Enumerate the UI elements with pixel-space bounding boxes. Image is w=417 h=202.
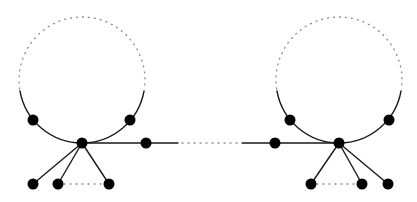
graph-svg <box>0 0 417 202</box>
left-leaf-edge-0 <box>33 143 82 184</box>
left-cycle-dotted-arc <box>19 17 145 89</box>
right-cycle-solid-arc <box>277 91 401 143</box>
edges-layer <box>19 17 402 184</box>
left-hub-vertex <box>77 138 88 149</box>
right-cycle-dotted-arc <box>276 17 402 89</box>
left-leaf-vertex-2 <box>104 179 115 190</box>
left-cycle-vertex-0 <box>28 115 39 126</box>
graph-diagram <box>0 0 417 202</box>
right-path-vertex <box>270 138 281 149</box>
right-leaf-edge-1 <box>339 143 362 184</box>
left-path-vertex <box>141 138 152 149</box>
right-leaf-vertex-1 <box>357 179 368 190</box>
left-cycle-vertex-1 <box>125 115 136 126</box>
vertices-layer <box>28 115 395 190</box>
right-leaf-edge-2 <box>339 143 388 184</box>
right-hub-vertex <box>334 138 345 149</box>
right-cycle-vertex-0 <box>285 115 296 126</box>
left-leaf-edge-2 <box>82 143 109 184</box>
right-cycle-vertex-1 <box>384 115 395 126</box>
right-leaf-vertex-0 <box>306 179 317 190</box>
right-leaf-edge-0 <box>311 143 339 184</box>
right-leaf-vertex-2 <box>383 179 394 190</box>
left-leaf-edge-1 <box>58 143 82 184</box>
left-leaf-vertex-0 <box>28 179 39 190</box>
left-leaf-vertex-1 <box>53 179 64 190</box>
